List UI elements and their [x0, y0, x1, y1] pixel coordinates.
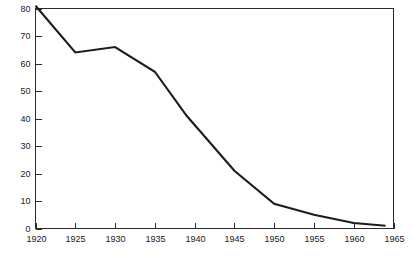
x-tick-label: 1940 [185, 234, 205, 244]
x-tick-label: 1960 [344, 234, 364, 244]
x-tick-label: 1935 [145, 234, 165, 244]
y-axis-tick-labels: 01020304050607080 [20, 4, 30, 234]
x-tick-label: 1930 [105, 234, 125, 244]
x-tick-label: 1920 [26, 234, 46, 244]
x-tick-label: 1965 [384, 234, 404, 244]
x-tick-label: 1925 [65, 234, 85, 244]
x-tick-label: 1955 [304, 234, 324, 244]
chart-figure: 01020304050607080 1920192519301935194019… [0, 0, 416, 258]
y-tick-label: 60 [20, 59, 30, 69]
y-tick-label: 50 [20, 86, 30, 96]
y-tick-label: 80 [20, 4, 30, 14]
y-tick-label: 70 [20, 31, 30, 41]
y-tick-label: 40 [20, 114, 30, 124]
y-tick-label: 10 [20, 196, 30, 206]
line-chart-canvas: 01020304050607080 1920192519301935194019… [0, 0, 416, 258]
x-tick-label: 1950 [264, 234, 284, 244]
x-tick-label: 1945 [224, 234, 244, 244]
y-tick-label: 0 [25, 224, 30, 234]
y-tick-label: 20 [20, 169, 30, 179]
y-tick-label: 30 [20, 141, 30, 151]
